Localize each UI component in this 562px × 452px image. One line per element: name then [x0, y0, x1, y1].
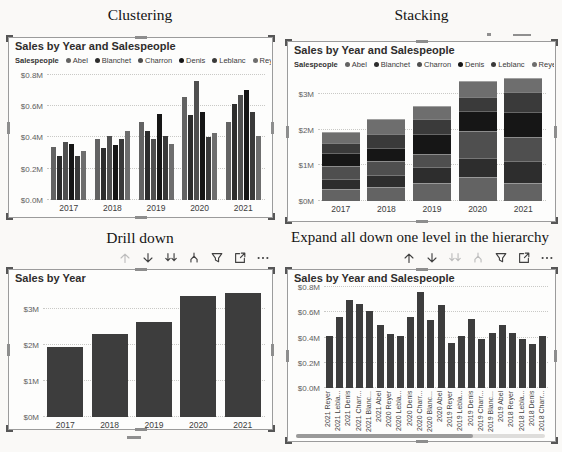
stacked-bar-segment[interactable]: [322, 179, 360, 189]
filter-icon[interactable]: [210, 251, 224, 265]
bar[interactable]: [256, 136, 261, 200]
bar[interactable]: [499, 325, 506, 388]
bar[interactable]: [194, 81, 199, 200]
bar[interactable]: [157, 114, 162, 200]
stacked-bar-segment[interactable]: [322, 143, 360, 153]
selection-handle-tr[interactable]: [551, 267, 558, 274]
bar[interactable]: [136, 322, 172, 417]
horizontal-scrollbar[interactable]: [296, 434, 545, 438]
stacked-bar-segment[interactable]: [504, 183, 542, 201]
stacked-bar-segment[interactable]: [413, 167, 451, 183]
stacked-bar-segment[interactable]: [459, 111, 497, 131]
legend-item-leblanc[interactable]: Leblanc: [491, 60, 524, 69]
stacked-bar-segment[interactable]: [413, 154, 451, 168]
bar[interactable]: [95, 139, 100, 200]
bar[interactable]: [438, 305, 445, 388]
clustering-visual[interactable]: Sales by Year and Salespeople Salespeopl…: [8, 37, 273, 218]
bar[interactable]: [145, 131, 150, 200]
stacked-bar-segment[interactable]: [504, 78, 542, 93]
expand-all-down-icon[interactable]: [187, 251, 201, 265]
stacked-bar-segment[interactable]: [322, 153, 360, 166]
bar[interactable]: [225, 293, 261, 417]
selection-handle-tl[interactable]: [285, 267, 292, 274]
bar[interactable]: [63, 142, 68, 200]
stacked-bar-segment[interactable]: [504, 92, 542, 112]
bar[interactable]: [478, 339, 485, 388]
stacked-bar-segment[interactable]: [322, 132, 360, 143]
bar[interactable]: [169, 144, 174, 200]
bar[interactable]: [101, 148, 106, 200]
selection-handle-bl[interactable]: [6, 213, 13, 220]
bar[interactable]: [326, 336, 333, 388]
selection-handle-br[interactable]: [551, 217, 558, 224]
legend-item-leblanc[interactable]: Leblanc: [212, 56, 245, 65]
selection-handle-ml[interactable]: [286, 350, 289, 362]
bar[interactable]: [539, 336, 546, 388]
bar[interactable]: [427, 320, 434, 388]
more-options-icon[interactable]: [540, 251, 554, 265]
expand-all-visual[interactable]: Sales by Year and Salespeople $0.0M$0.2M…: [287, 269, 556, 442]
selection-handle-mr[interactable]: [271, 344, 274, 356]
selection-handle-br[interactable]: [268, 425, 275, 432]
legend-item-charron[interactable]: Charron: [138, 56, 172, 65]
bar[interactable]: [489, 333, 496, 388]
selection-handle-mt[interactable]: [416, 268, 428, 271]
selection-handle-bl[interactable]: [6, 425, 13, 432]
selection-handle-bl[interactable]: [285, 217, 292, 224]
stacked-bar-segment[interactable]: [459, 158, 497, 177]
bar[interactable]: [448, 343, 455, 388]
stacking-visual[interactable]: Sales by Year and Salespeople Salespeopl…: [287, 41, 556, 222]
selection-handle-tr[interactable]: [268, 35, 275, 42]
selection-handle-mb[interactable]: [135, 428, 147, 431]
stacked-bar-segment[interactable]: [322, 189, 360, 201]
scrollbar-thumb[interactable]: [296, 434, 473, 438]
legend-item-reyer[interactable]: Reyer: [532, 60, 554, 69]
selection-handle-mt[interactable]: [135, 268, 147, 271]
selection-handle-mb[interactable]: [416, 220, 428, 223]
bar[interactable]: [212, 133, 217, 200]
legend-item-abel[interactable]: Abel: [345, 60, 367, 69]
bar[interactable]: [188, 115, 193, 200]
selection-handle-mb[interactable]: [416, 440, 428, 443]
selection-handle-tr[interactable]: [551, 39, 558, 46]
legend-item-reyer[interactable]: Reyer: [253, 56, 271, 65]
bar[interactable]: [407, 317, 414, 388]
selection-handle-tl[interactable]: [6, 267, 13, 274]
stacked-bar-segment[interactable]: [367, 134, 405, 148]
bar[interactable]: [113, 145, 118, 200]
bar[interactable]: [244, 90, 249, 200]
stacked-bar-segment[interactable]: [504, 161, 542, 183]
bar[interactable]: [346, 300, 353, 388]
selection-handle-tr[interactable]: [268, 267, 275, 274]
bar[interactable]: [81, 151, 86, 200]
bar[interactable]: [387, 334, 394, 388]
legend-item-blanchet[interactable]: Blanchet: [95, 56, 131, 65]
legend-item-charron[interactable]: Charron: [417, 60, 451, 69]
stacked-bar-segment[interactable]: [322, 166, 360, 179]
selection-handle-mt[interactable]: [135, 36, 147, 39]
bar[interactable]: [51, 147, 56, 200]
bar[interactable]: [458, 336, 465, 388]
stacked-bar-segment[interactable]: [504, 112, 542, 137]
stacked-bar-segment[interactable]: [459, 81, 497, 96]
bar[interactable]: [163, 136, 168, 200]
bar[interactable]: [468, 319, 475, 388]
selection-handle-tl[interactable]: [6, 35, 13, 42]
bar[interactable]: [238, 95, 243, 200]
legend-item-abel[interactable]: Abel: [66, 56, 88, 65]
drill-down-visual[interactable]: Sales by Year $0M$1M$2M$3M20172018201920…: [8, 269, 273, 430]
stacked-bar-segment[interactable]: [367, 187, 405, 201]
bar[interactable]: [232, 104, 237, 200]
bar[interactable]: [519, 339, 526, 388]
bar[interactable]: [529, 344, 536, 388]
bar[interactable]: [377, 325, 384, 388]
stacked-bar-segment[interactable]: [459, 177, 497, 201]
bar[interactable]: [92, 334, 128, 417]
selection-handle-br[interactable]: [268, 213, 275, 220]
bar[interactable]: [139, 122, 144, 200]
selection-handle-ml[interactable]: [286, 126, 289, 138]
stacked-bar-segment[interactable]: [367, 161, 405, 176]
bar[interactable]: [47, 347, 83, 417]
selection-handle-mr[interactable]: [554, 350, 557, 362]
stacked-bar-segment[interactable]: [413, 106, 451, 119]
